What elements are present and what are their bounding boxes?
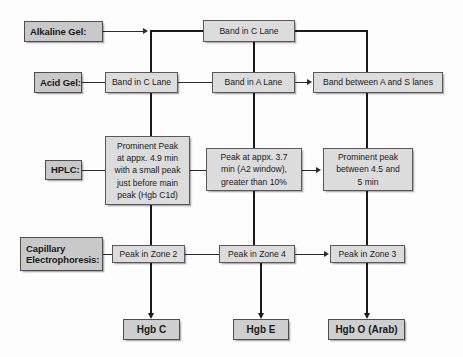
node-hplc-o-line2: between 4.5 and — [336, 163, 400, 175]
node-ce-peak-zone-2-text: Peak in Zone 2 — [120, 249, 178, 259]
connector-top-left-arm — [150, 30, 204, 32]
connector-top-right-arm — [294, 30, 368, 32]
arrowhead-zone4-to-zone3 — [324, 251, 329, 257]
node-acid-band-c-lane[interactable]: Band in C Lane — [105, 72, 178, 93]
node-hplc-c-line4: just before main — [117, 177, 178, 189]
node-hplc-e-line2: min (A2 window), — [221, 163, 287, 175]
connector-hplc-e-to-o — [302, 170, 317, 171]
connector-hplce-to-ce — [253, 190, 255, 248]
node-acid-band-c-lane-text: Band in C Lane — [112, 77, 171, 87]
node-alkaline-band-c-lane[interactable]: Band in C Lane — [203, 20, 295, 42]
connector-acida-to-hplc — [253, 91, 255, 149]
node-hplc-c-line3: with a small peak — [115, 164, 181, 176]
connector-left-spine-to-acid — [150, 30, 152, 74]
connector-zone2-to-hgbc — [150, 263, 152, 315]
node-hplc-e-line3: greater than 10% — [221, 176, 287, 188]
row-label-hplc: HPLC: — [45, 160, 82, 180]
row-label-alkaline-gel: Alkaline Gel: — [24, 21, 103, 42]
connector-alkaline-label-to-band — [103, 31, 145, 32]
node-hplc-o-line1: Prominent peak — [338, 151, 398, 163]
connector-hplc-label-to-node — [82, 170, 106, 171]
connector-zone4-to-hgbe — [260, 263, 262, 315]
arrowhead-hplc-e-to-o — [316, 167, 321, 173]
node-ce-peak-zone-4[interactable]: Peak in Zone 4 — [219, 245, 295, 263]
node-ce-peak-zone-3[interactable]: Peak in Zone 3 — [330, 245, 405, 263]
result-hgb-e-text: Hgb E — [247, 324, 276, 336]
node-hplc-peak-37min-a2-window[interactable]: Peak at appx. 3.7 min (A2 window), great… — [206, 148, 302, 191]
connector-acid-label-to-band — [82, 82, 106, 83]
node-acid-band-a-lane-text: Band in A Lane — [225, 77, 283, 87]
node-acid-band-a-lane[interactable]: Band in A Lane — [212, 72, 295, 93]
node-ce-peak-zone-4-text: Peak in Zone 4 — [228, 249, 286, 259]
connector-right-spine-to-acid — [366, 30, 368, 74]
row-label-capillary-electrophoresis: Capillary Electrophoresis: — [20, 237, 103, 271]
row-label-capillary-line2: Electrophoresis: — [26, 254, 99, 265]
result-hgb-c[interactable]: Hgb C — [123, 319, 180, 340]
connector-zone2-to-zone4 — [185, 254, 220, 255]
row-label-acid-gel: Acid Gel: — [34, 72, 82, 93]
node-hplc-prominent-peak-45-5min[interactable]: Prominent peak between 4.5 and 5 min — [323, 148, 413, 191]
node-acid-band-a-s-lanes-text: Band between A and S lanes — [323, 77, 433, 87]
result-hgb-o-arab[interactable]: Hgb O (Arab) — [328, 319, 405, 340]
node-ce-peak-zone-3-text: Peak in Zone 3 — [339, 249, 397, 259]
connector-hplcc-to-ce — [150, 204, 152, 248]
connector-acidc-to-hplc — [150, 91, 152, 137]
connector-top-center-stem — [253, 42, 255, 74]
result-hgb-e[interactable]: Hgb E — [233, 319, 289, 340]
row-label-capillary-line1: Capillary — [26, 243, 65, 254]
flowchart-diagram: Alkaline Gel: Acid Gel: HPLC: Capillary … — [0, 0, 463, 357]
connector-zone3-to-hgbo — [366, 263, 368, 315]
connector-hplc-c-to-e — [190, 170, 207, 171]
node-hplc-c-line1: Prominent Peak — [117, 140, 178, 152]
node-acid-band-a-s-lanes[interactable]: Band between A and S lanes — [313, 72, 443, 93]
node-hplc-prominent-peak-49min[interactable]: Prominent Peak at appx. 4.9 min with a s… — [105, 136, 190, 205]
arrowhead-acid-a-to-as — [307, 79, 312, 85]
node-hplc-o-line3: 5 min — [357, 176, 378, 188]
connector-acid-c-to-a — [178, 82, 213, 83]
node-ce-peak-zone-2[interactable]: Peak in Zone 2 — [112, 245, 185, 263]
arrowhead-alkaline-label-to-band — [143, 28, 148, 34]
row-label-alkaline-gel-text: Alkaline Gel: — [30, 26, 86, 37]
node-hplc-c-line5: peak (Hgb C1d) — [117, 189, 178, 201]
result-hgb-o-arab-text: Hgb O (Arab) — [335, 324, 397, 336]
connector-zone4-to-zone3 — [295, 254, 326, 255]
result-hgb-c-text: Hgb C — [137, 324, 166, 336]
row-label-hplc-text: HPLC: — [51, 164, 80, 175]
connector-acidas-to-hplc — [366, 91, 368, 149]
row-label-acid-gel-text: Acid Gel: — [40, 77, 81, 88]
node-alkaline-band-c-lane-text: Band in C Lane — [219, 26, 278, 36]
node-hplc-c-line2: at appx. 4.9 min — [117, 152, 178, 164]
connector-hplco-to-ce — [366, 190, 368, 248]
node-hplc-e-line1: Peak at appx. 3.7 — [221, 151, 288, 163]
